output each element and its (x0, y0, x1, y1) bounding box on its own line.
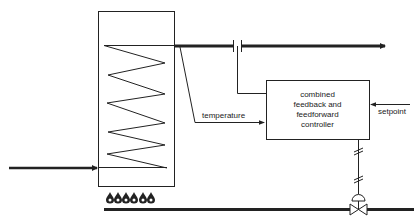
heating-coil (104, 46, 174, 169)
flow-signal-line (238, 46, 267, 94)
controller-label-line-2: feedback and (293, 100, 341, 110)
flame-icon (139, 192, 147, 204)
flame-icon (106, 192, 114, 204)
temperature-label: temperature (202, 111, 245, 121)
controller-label: combined feedback and feedforward contro… (266, 80, 369, 139)
controller-label-line-3: feedforward (296, 110, 338, 120)
flame-icon (130, 192, 138, 204)
controller-label-line-4: controller (301, 120, 334, 130)
setpoint-label: setpoint (378, 107, 406, 117)
flame-icon (122, 192, 130, 204)
valve-actuator-icon (352, 195, 365, 201)
flame-icon (147, 192, 155, 204)
burners (106, 192, 155, 204)
furnace-box (99, 12, 175, 187)
controller-label-line-1: combined (300, 90, 335, 100)
flame-icon (114, 192, 122, 204)
